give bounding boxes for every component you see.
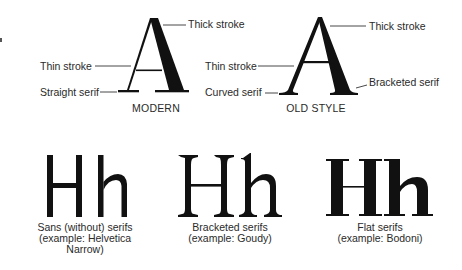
label-curved-serif: Curved serif [205, 87, 262, 98]
bracketed-serif-hh [178, 153, 282, 217]
typography-serif-diagram: Thick stroke Thin stroke Straight serif … [0, 0, 462, 270]
flat-serif-hh [326, 159, 433, 216]
label-thick-stroke-old: Thick stroke [369, 21, 426, 32]
caption-bracketed-serif: Bracketed serifs (example: Goudy) [175, 222, 285, 244]
title-old-style: OLD STYLE [276, 102, 356, 114]
caption-sans-serif: Sans (without) serifs (example: Helvetic… [30, 222, 140, 255]
label-bracketed-serif: Bracketed serif [369, 77, 439, 88]
old-style-letter-a [279, 17, 358, 95]
caption-flat-serif: Flat serifs (example: Bodoni) [325, 222, 435, 244]
sans-serif-hh [47, 155, 127, 217]
edge-mark [0, 38, 2, 42]
title-modern: MODERN [125, 102, 187, 114]
leader-bracketed-serif [356, 85, 367, 88]
label-thick-stroke-modern: Thick stroke [188, 19, 245, 30]
label-thin-stroke-modern: Thin stroke [40, 61, 92, 72]
label-straight-serif: Straight serif [40, 87, 99, 98]
label-thin-stroke-old: Thin stroke [205, 61, 257, 72]
modern-letter-a [118, 18, 189, 92]
